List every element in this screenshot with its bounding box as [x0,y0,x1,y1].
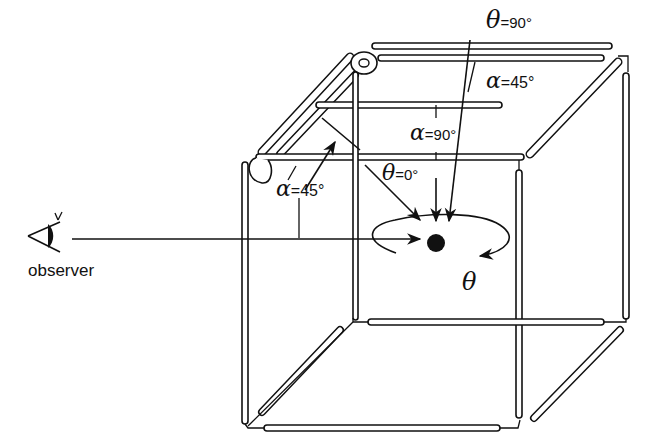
label-alpha-45-left: α=45° [276,176,324,201]
rod-front-bottom [264,425,500,431]
rod-back-top [372,43,612,49]
joint-front-left [249,158,271,183]
rod-top-right-diagonal [530,62,618,154]
label-alpha-90: α=90° [410,120,456,145]
label-theta-rotation: θ [462,268,477,296]
label-theta-0: θ=0° [382,160,418,185]
eye-icon [28,212,62,252]
label-alpha-45-top: α=45° [486,68,534,93]
rod-middle [316,102,502,108]
rod-bottom-left-diagonal [248,322,353,426]
rod-back-bottom [368,319,604,325]
rod-front-right-vertical [516,170,522,418]
observer [28,212,420,252]
rod-front-left-vertical [242,162,248,424]
observer-label: observer [28,261,94,280]
rod-bottom-right-diagonal [534,330,620,418]
label-theta-90: θ=90° [486,6,532,34]
cube-diagram: observer θ=90° α=45° α=90° θ=0° α=45° θ [0,0,657,447]
rod-back-left-vertical [353,72,358,320]
target-dot [427,234,445,252]
rod-back-right-vertical [623,73,629,319]
target [373,215,510,256]
rod-back-top-inner [378,55,604,61]
